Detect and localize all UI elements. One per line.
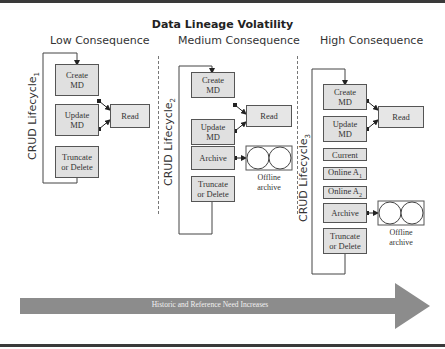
offline-archive-label-3: Offlinearchive — [378, 228, 424, 248]
update-md-box-1: UpdateMD — [55, 104, 99, 136]
archive-box-3: Archive — [323, 203, 367, 223]
truncate-delete-box-1: Truncateor Delete — [55, 146, 99, 178]
lifecycle-label-2: CRUD Lifecycle2 — [162, 98, 177, 186]
archive-box-2: Archive — [191, 146, 235, 170]
create-md-box-2: CreateMD — [191, 72, 235, 98]
current-box-3: Current — [323, 148, 367, 161]
arrow-label: Historic and Reference Need Increases — [20, 300, 400, 309]
read-box-1: Read — [110, 104, 150, 128]
offline-archive-label-2: Offlinearchive — [246, 173, 292, 193]
read-box-2: Read — [246, 105, 292, 127]
create-md-box-1: CreateMD — [55, 64, 99, 96]
truncate-delete-box-2: Truncateor Delete — [191, 176, 235, 202]
truncate-delete-box-3: Truncateor Delete — [323, 228, 367, 254]
online-a1-box-3: Online A1 — [323, 167, 367, 180]
update-md-box-2: UpdateMD — [191, 119, 235, 145]
update-md-box-3: UpdateMD — [323, 116, 367, 142]
lifecycle-label-1: CRUD Lifecycle1 — [26, 72, 41, 160]
create-md-box-3: CreateMD — [323, 84, 367, 110]
read-box-3: Read — [378, 106, 424, 128]
lifecycle-label-3: CRUD Lifecycle3 — [297, 134, 312, 222]
online-a2-box-3: Online A2 — [323, 186, 367, 199]
